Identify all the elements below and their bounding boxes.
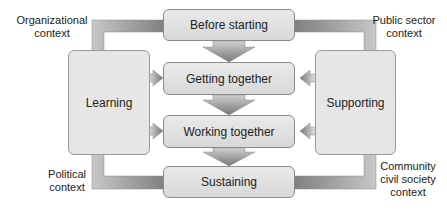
down-arrow-2 xyxy=(203,95,255,115)
stage-label: Before starting xyxy=(190,18,268,32)
learning-label: Learning xyxy=(86,96,133,110)
stage-sustaining: Sustaining xyxy=(163,166,295,198)
learning-box: Learning xyxy=(68,50,150,155)
stage-getting-together: Getting together xyxy=(163,62,295,95)
stage-before-starting: Before starting xyxy=(163,9,295,41)
collaboration-process-diagram: Learning Supporting Before starting Gett… xyxy=(0,0,447,213)
down-arrow-1 xyxy=(203,41,255,62)
public-sector-context-label: Public sector context xyxy=(366,14,442,40)
stage-label: Getting together xyxy=(186,72,272,86)
community-context-label: Community civil society context xyxy=(370,160,446,199)
stage-label: Sustaining xyxy=(201,175,257,189)
supporting-label: Supporting xyxy=(326,96,384,110)
supporting-box: Supporting xyxy=(315,50,396,155)
stage-label: Working together xyxy=(183,125,274,139)
political-context-label: Political context xyxy=(44,168,90,194)
stage-working-together: Working together xyxy=(163,115,295,148)
down-arrow-3 xyxy=(203,148,255,166)
organizational-context-label: Organizational context xyxy=(14,14,90,40)
